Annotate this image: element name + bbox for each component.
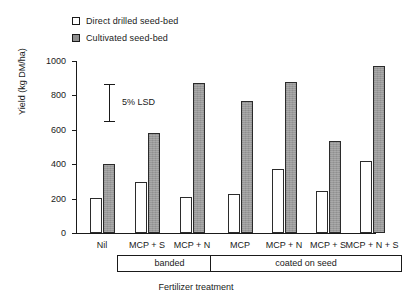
y-ticklabel-1000: 1000 <box>26 57 66 66</box>
bar-cultivated-0 <box>103 164 115 233</box>
y-ticklabel-600: 600 <box>26 126 66 135</box>
y-ticklabel-200: 200 <box>26 195 66 204</box>
x-axis-line <box>76 233 376 234</box>
bar-direct-drilled-2 <box>180 197 192 233</box>
bar-cultivated-6 <box>373 66 385 233</box>
bar-cultivated-5 <box>329 141 341 233</box>
y-ticklabel-0: 0 <box>26 229 66 238</box>
bar-direct-drilled-4 <box>272 169 284 233</box>
bar-direct-drilled-6 <box>360 161 372 233</box>
x-category-label-6: MCP + N + S <box>332 241 406 250</box>
chart-legend: Direct drilled seed-bed Cultivated seed-… <box>72 14 178 48</box>
legend-item-direct-drilled: Direct drilled seed-bed <box>72 14 178 28</box>
filled-square-icon <box>72 34 80 42</box>
lsd-cap-bottom <box>104 121 115 122</box>
x-axis-title: Fertilizer treatment <box>0 283 392 292</box>
y-tick-200 <box>72 199 76 200</box>
y-tick-600 <box>72 130 76 131</box>
bar-direct-drilled-0 <box>90 198 102 233</box>
y-tick-800 <box>72 95 76 96</box>
bar-cultivated-2 <box>193 83 205 233</box>
open-square-icon <box>72 17 80 25</box>
y-tick-1000 <box>72 61 76 62</box>
bracket-label-0: banded <box>118 256 221 271</box>
bar-cultivated-4 <box>285 82 297 233</box>
legend-item-cultivated: Cultivated seed-bed <box>72 31 178 45</box>
y-tick-0 <box>72 233 76 234</box>
lsd-label: 5% LSD <box>122 98 155 107</box>
bar-direct-drilled-3 <box>228 194 240 233</box>
legend-label-cultivated: Cultivated seed-bed <box>86 34 168 43</box>
bar-cultivated-1 <box>148 133 160 233</box>
lsd-stem <box>109 84 110 121</box>
y-axis-title: Yield (kg DM/ha) <box>18 48 27 115</box>
y-ticklabel-800: 800 <box>26 91 66 100</box>
bar-direct-drilled-1 <box>135 182 147 233</box>
bar-cultivated-3 <box>241 101 253 233</box>
bar-direct-drilled-5 <box>316 191 328 233</box>
y-axis-line <box>76 61 77 233</box>
plot-area: 1000 800 600 400 200 0 Yield (kg DM/ha) … <box>76 61 376 233</box>
y-ticklabel-400: 400 <box>26 160 66 169</box>
legend-label-direct-drilled: Direct drilled seed-bed <box>86 17 178 26</box>
y-tick-400 <box>72 164 76 165</box>
bracket-banded: banded <box>117 255 222 272</box>
bracket-label-1: coated on seed <box>211 256 401 271</box>
bracket-coated-on-seed: coated on seed <box>210 255 402 272</box>
